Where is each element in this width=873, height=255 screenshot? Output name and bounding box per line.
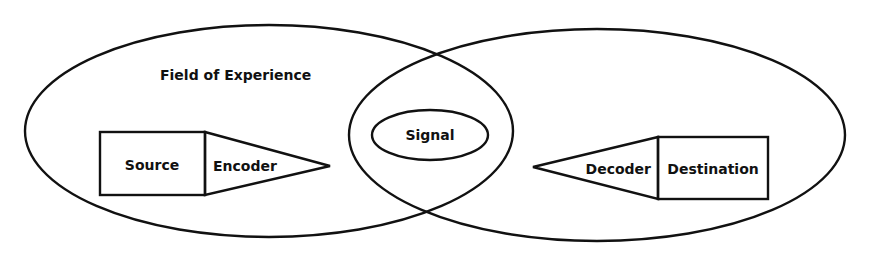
destination-label: Destination	[667, 161, 758, 177]
field-of-experience-label: Field of Experience	[160, 67, 311, 83]
communication-diagram: Field of Experience Signal Source Encode…	[0, 0, 873, 255]
source-label: Source	[125, 157, 179, 173]
decoder-label: Decoder	[586, 161, 652, 177]
encoder-label: Encoder	[213, 158, 277, 174]
signal-label: Signal	[405, 127, 454, 143]
